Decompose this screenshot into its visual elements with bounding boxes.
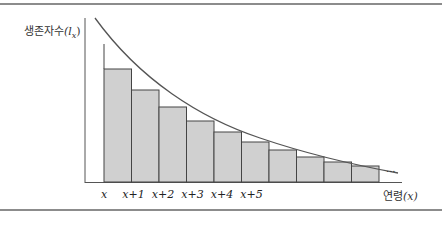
bar <box>187 121 215 182</box>
x-tick-label: x+1 <box>122 188 144 201</box>
continuation-dots: ... <box>386 163 396 174</box>
bar <box>297 157 325 182</box>
bar <box>104 69 132 182</box>
x-tick-label: x+4 <box>211 188 233 201</box>
bar <box>242 142 270 182</box>
x-tick-label: x+5 <box>240 188 262 201</box>
bar <box>159 107 187 182</box>
y-axis-label: 생존자수(lx) <box>24 22 81 40</box>
x-tick-label: x+3 <box>181 188 203 201</box>
bar <box>214 132 242 182</box>
x-tick-label: x+2 <box>152 188 174 201</box>
bars <box>104 69 379 182</box>
bar <box>324 162 352 182</box>
bar <box>269 150 297 182</box>
bar <box>132 90 160 182</box>
x-axis-label: 연령(x) <box>383 187 418 203</box>
x-tick-label: x <box>101 188 107 201</box>
